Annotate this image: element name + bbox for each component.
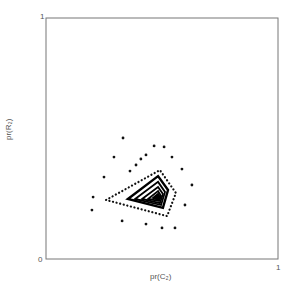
- y-tick-1: 1: [40, 12, 44, 21]
- data-point: [191, 184, 194, 187]
- data-point: [161, 227, 164, 230]
- data-point: [92, 196, 95, 199]
- data-point: [184, 204, 187, 207]
- x-tick-1: 1: [276, 263, 280, 272]
- data-point: [113, 156, 116, 159]
- plot-area: [0, 0, 294, 301]
- data-point: [139, 158, 142, 161]
- data-point: [135, 164, 138, 167]
- data-point: [153, 145, 156, 148]
- data-point: [129, 170, 132, 173]
- origin-tick-0: 0: [38, 255, 42, 264]
- plot-frame: [46, 18, 278, 259]
- data-point: [145, 223, 148, 226]
- y-axis-label: pr(R₂): [4, 119, 13, 140]
- data-point: [91, 209, 94, 212]
- data-point: [163, 146, 166, 149]
- data-point: [181, 168, 184, 171]
- data-point: [145, 153, 148, 156]
- data-point: [103, 176, 106, 179]
- scatter-points: [91, 137, 194, 230]
- data-point: [174, 227, 177, 230]
- x-axis-label: pr(C₂): [150, 272, 171, 281]
- data-point: [171, 156, 174, 159]
- data-point: [122, 137, 125, 140]
- contour-lines: [128, 176, 168, 208]
- data-point: [121, 220, 124, 223]
